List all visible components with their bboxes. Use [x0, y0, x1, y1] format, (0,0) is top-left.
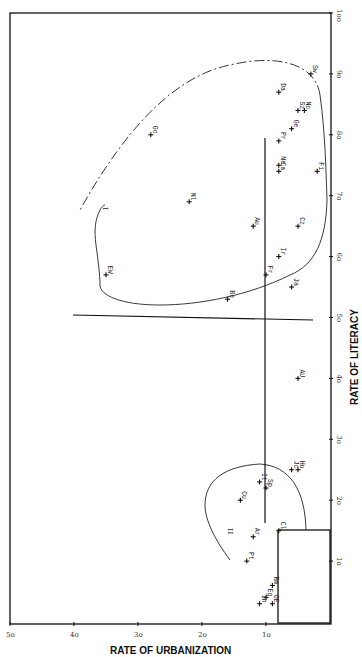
x-axis-title: RATE OF URBANIZATION — [110, 645, 231, 656]
point-label: Cz — [298, 217, 305, 225]
point-label: Ir — [279, 248, 286, 256]
point-label: Au — [253, 217, 260, 225]
point-label: Pr — [279, 132, 286, 140]
y-axis-title: RATE OF LITERACY — [349, 309, 360, 405]
y-tick-label: 9o — [335, 70, 343, 79]
literacy-50-line — [73, 315, 313, 320]
data-point: Ca — [276, 162, 286, 174]
point-label: In — [260, 595, 267, 603]
y-tick-label: 7o — [335, 192, 343, 201]
y-tick-label: 1oo — [335, 9, 343, 22]
data-point: Da — [276, 83, 286, 95]
y-tick-label: 6o — [335, 253, 343, 262]
data-point: Jc — [289, 461, 299, 473]
point-label: Ar — [253, 528, 260, 536]
data-point: Cu — [238, 491, 248, 503]
data-point: Pr — [276, 132, 286, 144]
point-label: Pt — [247, 552, 254, 560]
region-label-one: I — [101, 207, 110, 210]
data-point: Go — [148, 126, 158, 138]
point-label: Da — [279, 83, 286, 91]
point-label: Hu — [298, 461, 305, 469]
data-points: SwDaSzNoGePrGoNeCaFiNlAuCzEWFrIrBeJaAUJc… — [104, 65, 325, 606]
point-label: Cl — [279, 522, 286, 530]
data-point: Sz — [296, 101, 306, 113]
point-label: AU — [298, 369, 305, 377]
point-label: Fr — [266, 266, 273, 274]
point-label: It — [260, 473, 267, 481]
y-tick-label: 2o — [335, 496, 343, 505]
point-label: Sp — [266, 479, 273, 487]
data-point: Nl — [187, 193, 197, 205]
data-point: AU — [296, 369, 306, 381]
x-tick-label: 4o — [70, 631, 79, 639]
point-label: EW — [106, 266, 113, 274]
data-point: Fi — [315, 162, 325, 174]
y-tick-label: 3o — [335, 435, 343, 444]
point-label: Sw — [311, 65, 318, 73]
y-tick-label: 4o — [335, 374, 343, 383]
y-tick-label: 5o — [335, 314, 343, 323]
x-tick-label: 3o — [134, 631, 143, 639]
point-label: OE — [272, 595, 279, 603]
y-tick-label: 8o — [335, 131, 343, 140]
low-region-box — [278, 530, 330, 623]
data-point: Ar — [251, 528, 261, 540]
point-label: Ca — [279, 162, 286, 170]
data-point: Au — [251, 217, 261, 229]
point-label: Go — [151, 126, 158, 134]
point-label: Ja — [292, 278, 299, 286]
data-point: Cz — [296, 217, 306, 229]
y-tick-label: 1o — [335, 557, 343, 566]
point-label: No — [304, 101, 311, 109]
point-label: Be — [228, 290, 235, 298]
point-label: Nl — [189, 193, 196, 201]
plot-frame — [10, 13, 331, 624]
x-tick-label: 2o — [198, 631, 207, 639]
x-tick-label: 5o — [6, 631, 15, 639]
cluster-two-boundary — [205, 464, 306, 560]
point-label: Cu — [240, 491, 247, 499]
data-point: In — [257, 595, 267, 607]
point-label: Rm — [272, 576, 279, 584]
point-label: Fi — [317, 162, 324, 170]
data-point: Ge — [289, 120, 299, 132]
scatter-chart: 5o4o3o2o1o 1o2o3o4o5o6o7o8o9o1oo RATE OF… — [0, 0, 362, 657]
data-point: EW — [104, 266, 114, 278]
data-point: Ir — [276, 248, 286, 260]
point-label: Ge — [292, 120, 299, 128]
x-tick-label: 1o — [262, 631, 271, 639]
data-point: Ja — [289, 278, 299, 290]
data-point: Be — [225, 290, 235, 302]
data-point: Pt — [244, 552, 254, 564]
region-label-two: II — [226, 528, 235, 534]
